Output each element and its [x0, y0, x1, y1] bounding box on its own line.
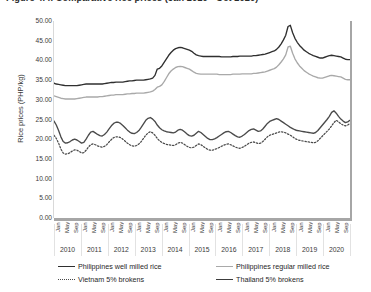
- x-axis-month-tick: May: [225, 222, 234, 246]
- legend-item[interactable]: Philippines regular milled rice: [216, 262, 329, 271]
- y-axis-tick: 50.00: [12, 18, 52, 24]
- chart-figure: Figure 4.4. Comparative rice prices (Jan…: [0, 0, 371, 292]
- y-axis-tick: 5.00: [12, 195, 52, 201]
- x-axis-year-label: 2016: [215, 244, 242, 256]
- y-axis-tick: 15.00: [12, 156, 52, 162]
- chart-legend: Philippines well milled ricePhilippines …: [54, 262, 364, 288]
- x-axis-year-label: 2012: [108, 244, 135, 256]
- y-axis-tick: 30.00: [12, 97, 52, 103]
- x-axis-month-tick: May: [279, 222, 288, 246]
- x-axis-year-label: 2018: [269, 244, 296, 256]
- legend-swatch-icon: [216, 263, 233, 270]
- x-axis-year-label: 2013: [135, 244, 162, 256]
- x-axis-year-label: 2015: [189, 244, 216, 256]
- x-axis-month-tick: Jan: [297, 222, 306, 246]
- series-line: [54, 120, 350, 154]
- legend-item-label: Philippines regular milled rice: [236, 262, 329, 271]
- series-lines: [54, 21, 350, 218]
- x-axis-month-tick: Jan: [135, 222, 144, 246]
- x-axis-month-tick: Jan: [270, 222, 279, 246]
- x-axis-year-label: 2019: [296, 244, 323, 256]
- x-axis-month-tick: May: [144, 222, 153, 246]
- x-axis-month-tick: Jan: [162, 222, 171, 246]
- legend-swatch-icon: [58, 276, 75, 283]
- x-axis-month-tick: Jan: [189, 222, 198, 246]
- x-axis-month-tick: May: [117, 222, 126, 246]
- x-axis-line: [54, 218, 352, 221]
- legend-item[interactable]: Thailand 5% brokens: [216, 275, 304, 284]
- legend-swatch-icon: [216, 276, 233, 283]
- legend-swatch-icon: [58, 263, 75, 270]
- y-axis-tick: 0.00: [12, 215, 52, 221]
- x-axis-year-label: 2010: [54, 244, 81, 256]
- y-axis-tick: 40.00: [12, 57, 52, 63]
- legend-item-label: Thailand 5% brokens: [236, 275, 304, 284]
- x-axis-month-tick: Jan: [243, 222, 252, 246]
- x-axis-month-tick: May: [90, 222, 99, 246]
- x-axis-month-tick: May: [198, 222, 207, 246]
- x-axis-year-label: 2011: [81, 244, 108, 256]
- y-axis-tick: 10.00: [12, 176, 52, 182]
- legend-item-label: Vietnam 5% brokens: [78, 275, 144, 284]
- legend-item[interactable]: Philippines well milled rice: [58, 262, 162, 271]
- x-axis-month-tick: May: [171, 222, 180, 246]
- x-axis-month-tick: Jan: [216, 222, 225, 246]
- x-axis-year-label: 2017: [242, 244, 269, 256]
- x-axis-month-tick: Jan: [324, 222, 333, 246]
- x-axis-year-separator: [350, 224, 351, 256]
- x-axis-year-label: 2014: [162, 244, 189, 256]
- y-axis-tick: 25.00: [12, 117, 52, 123]
- legend-item[interactable]: Vietnam 5% brokens: [58, 275, 144, 284]
- series-line: [54, 111, 350, 143]
- x-axis-month-tick: Jan: [108, 222, 117, 246]
- x-axis-month-tick: May: [306, 222, 315, 246]
- x-axis-month-tick: May: [333, 222, 342, 246]
- x-axis-year-labels: 2010201120122013201420152016201720182019…: [54, 244, 352, 256]
- y-axis-tick: 35.00: [12, 77, 52, 83]
- legend-item-label: Philippines well milled rice: [78, 262, 162, 271]
- x-axis-month-labels: JanMaySepJanMaySepJanMaySepJanMaySepJanM…: [54, 222, 352, 246]
- x-axis-month-tick: May: [252, 222, 261, 246]
- y-axis-tick: 20.00: [12, 136, 52, 142]
- x-axis-year-label: 2020: [323, 244, 350, 256]
- series-line: [54, 25, 350, 85]
- y-axis-tick: 45.00: [12, 38, 52, 44]
- y-axis-tick-labels: 50.0045.0040.0035.0030.0025.0020.0015.00…: [12, 0, 52, 240]
- series-line: [54, 46, 350, 99]
- plot-area: [54, 21, 352, 218]
- figure-title: Figure 4.4. Comparative rice prices (Jan…: [6, 0, 366, 5]
